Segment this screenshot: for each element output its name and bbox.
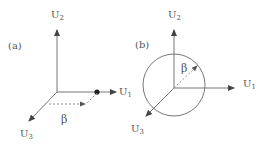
u3-label-b: U3 (131, 123, 144, 136)
u3-axis-arrow-b (146, 88, 174, 116)
panel-b-label: (b) (135, 39, 149, 50)
beta-label-a: β (61, 113, 67, 126)
point-marker-a (94, 89, 99, 94)
u2-label-a: U2 (51, 9, 64, 22)
u1-label-b: U1 (243, 78, 256, 91)
panel-b: (b) U2 U1 U3 β (131, 9, 256, 136)
u1-label-a: U1 (119, 86, 132, 99)
u2-label-b: U2 (168, 9, 181, 22)
u3-label-a: U3 (20, 128, 33, 141)
u3-axis-arrow-a (29, 92, 57, 121)
dashed-drop-line-a (87, 93, 97, 103)
panel-a-label: (a) (8, 40, 22, 51)
panel-a: (a) U2 U1 U3 β (8, 9, 132, 141)
beta-label-b: β (181, 62, 187, 75)
diagram-canvas: (a) U2 U1 U3 β (b) U2 U1 U3 β (0, 0, 266, 151)
